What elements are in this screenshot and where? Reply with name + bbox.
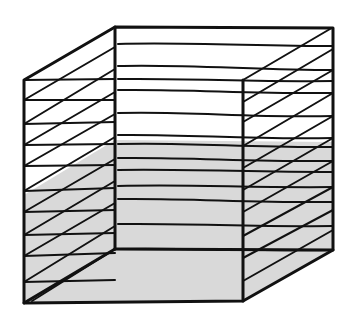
layered-cube-svg — [0, 0, 357, 311]
cube-diagram — [0, 0, 357, 311]
